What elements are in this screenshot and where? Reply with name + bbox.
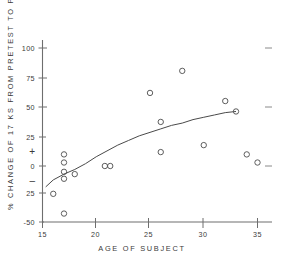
- data-point: [158, 119, 163, 124]
- data-point: [61, 211, 66, 216]
- y-axis-minus-sign: –: [29, 175, 35, 186]
- data-point: [255, 160, 260, 165]
- data-point: [61, 176, 66, 181]
- x-tick-label-35: 35: [253, 230, 262, 239]
- trend-line: [46, 111, 236, 186]
- x-tick-label-25: 25: [144, 230, 153, 239]
- y-axis-title: % CHANGE OF 17 KS FROM PRETEST TO POST T…: [6, 0, 15, 210]
- data-point: [61, 160, 66, 165]
- y-tick-label-neg25: 25: [26, 189, 35, 198]
- data-point: [51, 191, 56, 196]
- scatter-chart-figure: % CHANGE OF 17 KS FROM PRETEST TO POST T…: [0, 0, 281, 256]
- y-tick-label-50: 50: [26, 103, 35, 112]
- x-axis-title: AGE OF SUBJECT: [98, 244, 185, 253]
- x-tick-label-30: 30: [199, 230, 208, 239]
- y-tick-label-25: 25: [26, 133, 35, 142]
- right-edge-marks: [265, 48, 272, 166]
- y-tick-label-0: 0: [31, 162, 35, 171]
- x-axis-tick-labels: 15 20 25 30 35: [38, 230, 262, 239]
- y-tick-label-75: 75: [26, 74, 35, 83]
- data-point: [147, 90, 152, 95]
- data-point: [244, 152, 249, 157]
- x-tick-label-20: 20: [91, 230, 100, 239]
- y-tick-label-100: 100: [22, 44, 35, 53]
- y-axis-plus-sign: +: [29, 146, 35, 157]
- data-point: [223, 98, 228, 103]
- data-point: [61, 152, 66, 157]
- data-point: [102, 163, 107, 168]
- data-point: [72, 171, 77, 176]
- y-tick-label-neg50: -50: [23, 218, 35, 227]
- y-axis-tick-labels: 100 75 50 25 0 25 -50: [22, 44, 35, 227]
- data-points-layer: [51, 68, 261, 216]
- data-point: [158, 149, 163, 154]
- chart-canvas: % CHANGE OF 17 KS FROM PRETEST TO POST T…: [0, 0, 281, 256]
- data-point: [108, 163, 113, 168]
- x-tick-label-15: 15: [38, 230, 47, 239]
- x-axis-ticks: [43, 218, 258, 228]
- data-point: [180, 68, 185, 73]
- data-point: [201, 142, 206, 147]
